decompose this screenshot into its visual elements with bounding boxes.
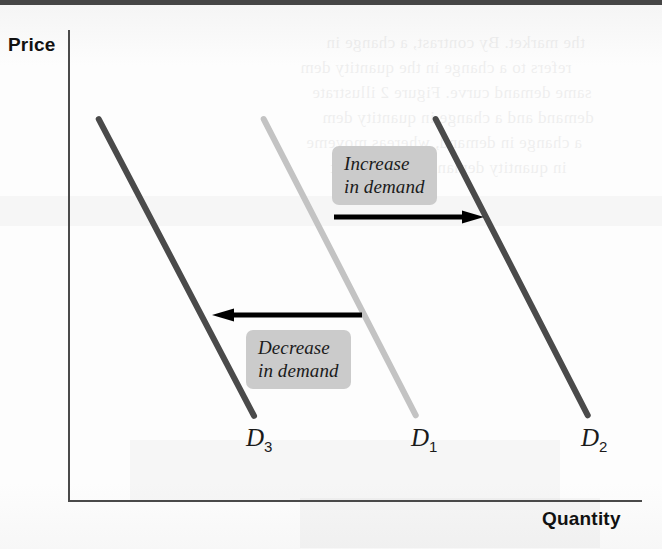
paper-background [0, 0, 662, 549]
bleed-through-line: same demand curve. Figure 2 illustrate [312, 80, 592, 105]
y-axis [68, 30, 70, 502]
increase-in-demand-arrow [334, 210, 484, 224]
page-top-edge [0, 0, 662, 5]
bleed-through-band [0, 196, 662, 226]
y-axis-label: Price [8, 34, 55, 56]
curve-label-d2-subscript: 2 [599, 438, 607, 455]
curve-label-d1: D1 [411, 424, 437, 455]
decrease-in-demand-arrow [212, 308, 362, 322]
demand-curve-d2 [432, 115, 592, 420]
curve-label-d2-letter: D [581, 424, 599, 451]
bleed-through-band [130, 440, 560, 500]
curve-label-d1-letter: D [411, 424, 429, 451]
curve-label-d2: D2 [581, 424, 607, 455]
demand-shift-figure: the market. By contrast, a change in ref… [0, 0, 662, 549]
increase-in-demand-callout: Increase in demand [332, 146, 437, 205]
x-axis-label: Quantity [542, 508, 621, 530]
bleed-through-line: the market. By contrast, a change in [326, 30, 585, 55]
demand-curve-d3 [95, 115, 258, 420]
curve-label-d3-subscript: 3 [264, 438, 272, 455]
curve-label-d1-subscript: 1 [429, 438, 437, 455]
bleed-through-line: demand and a change in quantity dem [322, 105, 594, 130]
bleed-through-line: refers to a change in the quantity dem [300, 55, 572, 80]
curve-label-d3: D3 [246, 424, 272, 455]
x-axis [68, 500, 642, 502]
curve-label-d3-letter: D [246, 424, 264, 451]
decrease-in-demand-callout: Decrease in demand [246, 330, 351, 389]
